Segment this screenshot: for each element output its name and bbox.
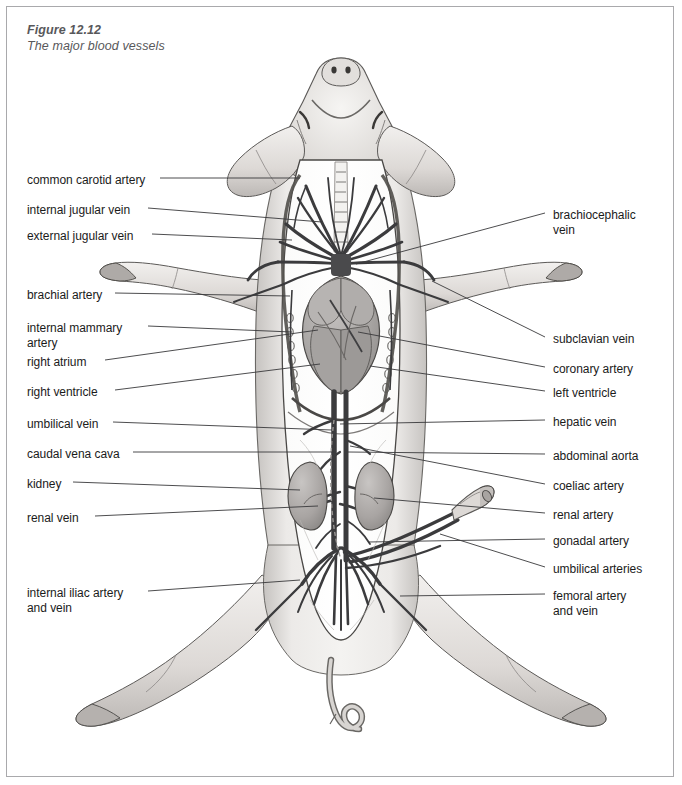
label-internal-jugular-vein: internal jugular vein xyxy=(27,203,130,218)
label-brachial-artery: brachial artery xyxy=(27,288,102,303)
label-umbilical-vein: umbilical vein xyxy=(27,417,98,432)
label-internal-mammary-artery: internal mammary artery xyxy=(27,321,122,351)
label-subclavian-vein: subclavian vein xyxy=(553,332,634,347)
label-common-carotid-artery: common carotid artery xyxy=(27,173,145,188)
label-right-atrium: right atrium xyxy=(27,355,86,370)
label-right-ventricle: right ventricle xyxy=(27,385,98,400)
label-kidney: kidney xyxy=(27,477,61,492)
label-internal-iliac-artery-and-vein: internal iliac artery and vein xyxy=(27,586,123,616)
label-femoral-artery-and-vein: femoral artery and vein xyxy=(553,589,626,619)
figure-caption: Figure 12.12 The major blood vessels xyxy=(27,22,327,54)
label-umbilical-arteries: umbilical arteries xyxy=(553,562,642,577)
label-external-jugular-vein: external jugular vein xyxy=(27,229,133,244)
label-coeliac-artery: coeliac artery xyxy=(553,479,624,494)
label-coronary-artery: coronary artery xyxy=(553,362,633,377)
label-renal-vein: renal vein xyxy=(27,511,79,526)
figure-number: Figure 12.12 xyxy=(27,22,327,38)
figure-page: Figure 12.12 The major blood vessels xyxy=(0,0,682,785)
label-gonadal-artery: gonadal artery xyxy=(553,534,629,549)
label-hepatic-vein: hepatic vein xyxy=(553,415,616,430)
label-renal-artery: renal artery xyxy=(553,508,613,523)
figure-subtitle: The major blood vessels xyxy=(27,38,327,54)
label-abdominal-aorta: abdominal aorta xyxy=(553,449,638,464)
label-left-ventricle: left ventricle xyxy=(553,386,616,401)
label-caudal-vena-cava: caudal vena cava xyxy=(27,447,120,462)
label-brachiocephalic-vein: brachiocephalic vein xyxy=(553,208,636,238)
